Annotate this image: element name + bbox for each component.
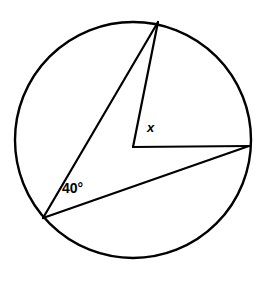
circle-outline — [15, 22, 251, 258]
radius-center-to-right — [133, 146, 249, 147]
chord-bottomleft-to-top — [43, 22, 158, 218]
angle-label-x: x — [147, 121, 154, 134]
geometry-figure: 40° x — [0, 0, 267, 281]
geometry-canvas — [0, 0, 267, 281]
radius-center-to-top — [133, 22, 158, 147]
angle-label-40-degrees: 40° — [62, 181, 83, 195]
